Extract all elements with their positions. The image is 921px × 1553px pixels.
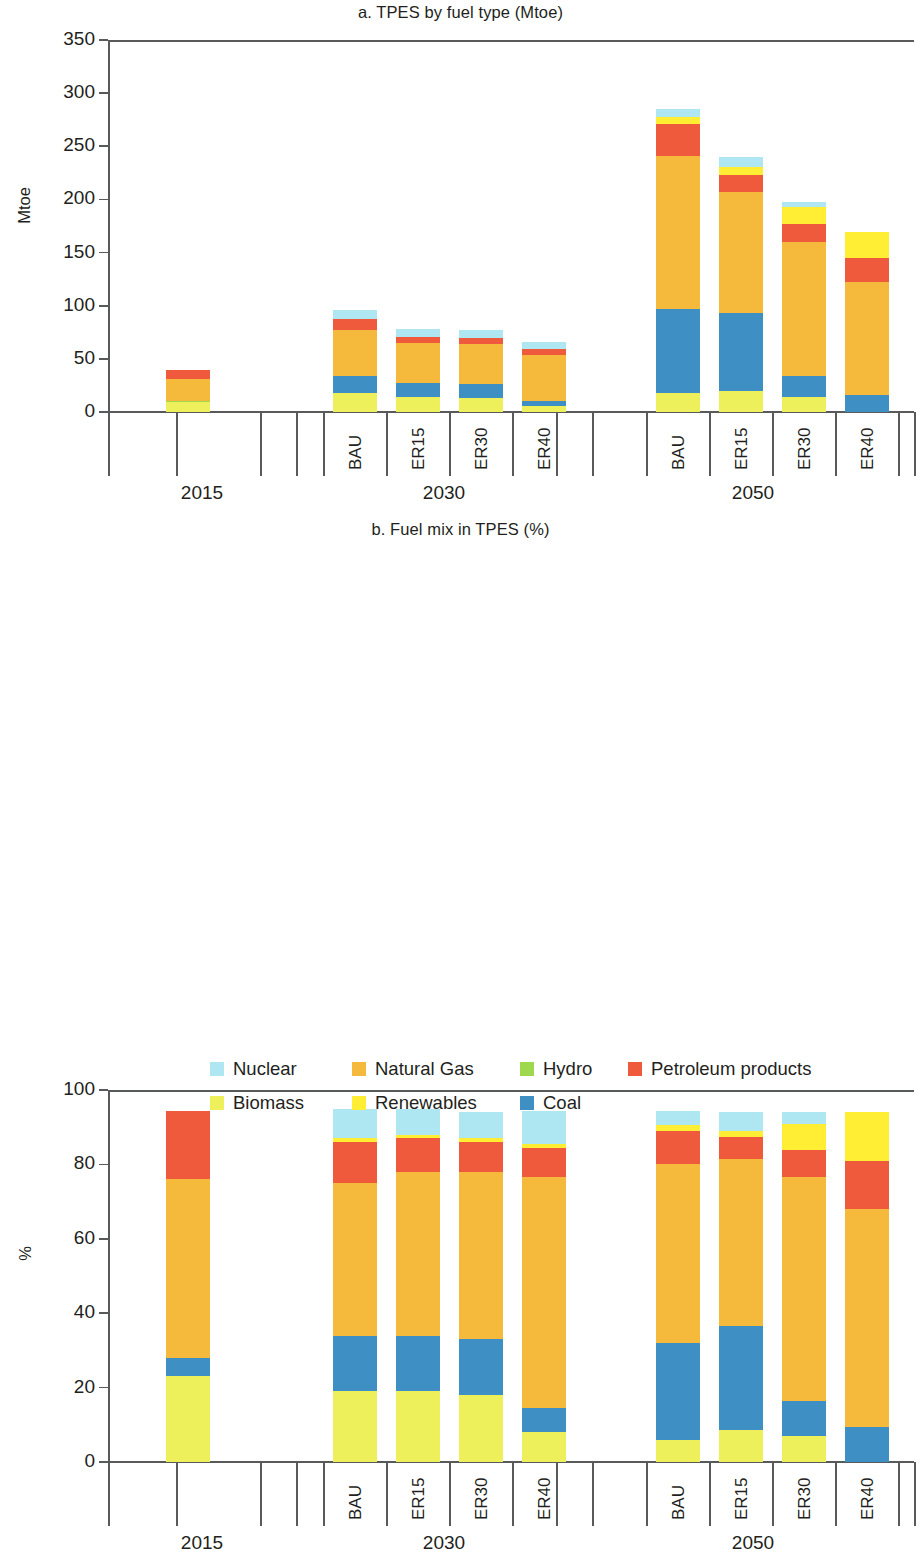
y-axis-tick-label: 200: [63, 187, 95, 209]
y-axis-tick-mark: [99, 145, 108, 147]
x-axis-group-tick: [108, 412, 110, 476]
bar-segment: [845, 395, 889, 412]
panel-a-x-axis: BAUER15ER30ER40BAUER15ER30ER402015203020…: [108, 412, 914, 512]
x-axis-tick: [323, 412, 325, 476]
y-axis-tick-mark: [99, 1387, 108, 1389]
x-axis-tick: [898, 412, 900, 476]
legend-item: Hydro: [520, 1060, 592, 1079]
bar-segment: [656, 109, 700, 116]
x-axis-tick: [646, 1462, 648, 1526]
legend-label: Hydro: [543, 1060, 592, 1079]
bar-segment: [333, 1183, 377, 1336]
panel-a-y-axis-label: Mtoe: [15, 187, 34, 224]
bar-segment: [719, 1137, 763, 1159]
y-axis-tick-label: 350: [63, 28, 95, 50]
bar-segment: [396, 1336, 440, 1392]
stacked-bar: [656, 109, 700, 412]
y-axis-tick-mark: [99, 358, 108, 360]
bar-segment: [459, 398, 503, 412]
stacked-bar: [333, 310, 377, 412]
x-axis-tick: [449, 1462, 451, 1526]
x-axis-scenario-label: ER40: [858, 427, 878, 470]
y-axis-tick-mark: [99, 1312, 108, 1314]
x-axis-group-tick: [296, 412, 298, 476]
x-axis-tick: [512, 1462, 514, 1526]
x-axis-year-label: 2050: [592, 1532, 914, 1553]
x-axis-scenario-label: ER15: [732, 1477, 752, 1520]
y-axis-tick-mark: [99, 39, 108, 41]
y-axis-tick-mark: [99, 92, 108, 94]
x-axis-tick: [835, 412, 837, 476]
x-axis-scenario-label: BAU: [346, 435, 366, 470]
x-axis-tick: [323, 1462, 325, 1526]
x-axis-scenario-label: ER15: [409, 1477, 429, 1520]
bar-segment: [459, 384, 503, 398]
stacked-bar: [166, 1111, 210, 1463]
legend-item: Renewables: [352, 1094, 477, 1113]
y-axis-tick-label: 250: [63, 134, 95, 156]
x-axis-tick: [709, 1462, 711, 1526]
bar-segment: [656, 1440, 700, 1462]
stacked-bar: [782, 202, 826, 412]
bar-segment: [166, 1358, 210, 1377]
x-axis-tick: [386, 1462, 388, 1526]
panel-b-y-axis-label: %: [16, 1246, 35, 1261]
bar-segment: [166, 370, 210, 379]
bar-segment: [782, 1177, 826, 1400]
legend-item: Natural Gas: [352, 1060, 474, 1079]
y-axis-tick-label: 300: [63, 81, 95, 103]
legend-item: Biomass: [210, 1094, 304, 1113]
legend-label: Natural Gas: [375, 1060, 474, 1079]
bar-segment: [459, 1142, 503, 1172]
y-axis-tick-mark: [99, 199, 108, 201]
legend-color-swatch: [520, 1062, 534, 1076]
bar-segment: [166, 1376, 210, 1462]
y-axis-tick-mark: [99, 1461, 108, 1463]
y-axis-tick-label: 20: [74, 1376, 95, 1398]
x-axis-group-tick: [260, 1462, 262, 1526]
panel-b-x-axis: BAUER15ER30ER40BAUER15ER30ER402015203020…: [108, 1462, 914, 1553]
legend-color-swatch: [352, 1062, 366, 1076]
x-axis-tick: [772, 1462, 774, 1526]
x-axis-scenario-label: ER30: [472, 1477, 492, 1520]
x-axis-tick: [646, 412, 648, 476]
legend-item: Petroleum products: [628, 1060, 811, 1079]
legend-item: Coal: [520, 1094, 581, 1113]
bar-segment: [845, 258, 889, 282]
x-axis-tick: [449, 412, 451, 476]
bar-segment: [396, 329, 440, 336]
x-axis-group-tick: [176, 412, 178, 476]
bar-segment: [719, 157, 763, 167]
bar-segment: [719, 192, 763, 313]
bar-segment: [782, 1401, 826, 1436]
panel-b-y-axis: [108, 1090, 110, 1462]
x-axis-group-tick: [556, 412, 558, 476]
bar-segment: [522, 1177, 566, 1408]
bar-segment: [459, 330, 503, 337]
y-axis-tick-mark: [99, 1238, 108, 1240]
stacked-bar: [459, 1112, 503, 1462]
x-axis-tick: [898, 1462, 900, 1526]
bar-segment: [333, 1336, 377, 1392]
x-axis-scenario-label: ER40: [535, 427, 555, 470]
y-axis-tick-mark: [99, 252, 108, 254]
panel-a-title: a. TPES by fuel type (Mtoe): [0, 3, 921, 22]
legend-item: Nuclear: [210, 1060, 297, 1079]
legend-color-swatch: [352, 1096, 366, 1110]
y-axis-tick-label: 50: [74, 347, 95, 369]
y-axis-tick-label: 0: [84, 400, 95, 422]
stacked-bar: [396, 1109, 440, 1462]
x-axis-group-tick: [296, 1462, 298, 1526]
x-axis-scenario-label: ER30: [795, 427, 815, 470]
x-axis-scenario-label: BAU: [669, 435, 689, 470]
x-axis-scenario-label: ER15: [409, 427, 429, 470]
bar-segment: [719, 313, 763, 391]
panel-a-y-axis: [108, 40, 110, 412]
stacked-bar: [166, 370, 210, 412]
bar-segment: [396, 1172, 440, 1336]
x-axis-year-label: 2015: [108, 482, 296, 504]
legend-color-swatch: [628, 1062, 642, 1076]
stacked-bar: [845, 232, 889, 412]
legend-label: Nuclear: [233, 1060, 297, 1079]
y-axis-tick-label: 40: [74, 1301, 95, 1323]
